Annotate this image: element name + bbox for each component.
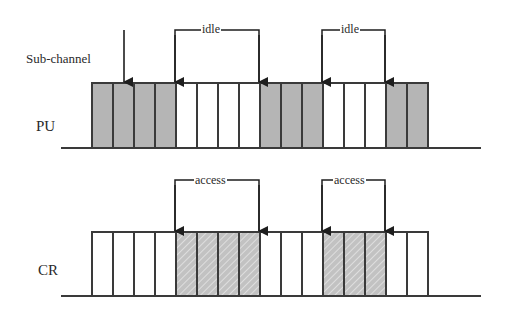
pu-cell-busy — [386, 83, 407, 148]
access-bracket-2 — [322, 180, 385, 231]
cr-cell-access — [344, 232, 365, 296]
spectrum-diagram: Sub-channel PU CR idle idle access acces… — [0, 0, 510, 314]
cr-cell-access — [176, 232, 197, 296]
cr-cell-access — [197, 232, 218, 296]
pu-cell-busy — [260, 83, 281, 148]
pu-subchannel-row — [92, 83, 428, 148]
pu-row-label: PU — [36, 118, 55, 135]
subchannel-label: Sub-channel — [26, 51, 91, 67]
cr-cell-access — [239, 232, 260, 296]
pu-cell-idle — [197, 83, 218, 148]
cr-cell-empty — [92, 232, 113, 296]
pu-cell-busy — [155, 83, 176, 148]
pu-cell-idle — [365, 83, 386, 148]
access-bracket-label-1: access — [194, 174, 227, 186]
cr-cell-empty — [386, 232, 407, 296]
pu-cell-busy — [281, 83, 302, 148]
pu-cell-idle — [239, 83, 260, 148]
pu-cell-busy — [407, 83, 428, 148]
idle-bracket-label-2: idle — [340, 23, 360, 35]
cr-cell-access — [323, 232, 344, 296]
access-bracket-label-2: access — [333, 174, 366, 186]
idle-bracket-1 — [175, 30, 259, 82]
cr-cell-empty — [155, 232, 176, 296]
cr-cell-empty — [113, 232, 134, 296]
cr-subchannel-row — [92, 232, 428, 296]
cr-cell-empty — [281, 232, 302, 296]
pu-cell-idle — [323, 83, 344, 148]
pu-cell-idle — [344, 83, 365, 148]
cr-cell-access — [218, 232, 239, 296]
pu-cell-idle — [218, 83, 239, 148]
cr-cell-empty — [407, 232, 428, 296]
idle-bracket-label-1: idle — [201, 23, 221, 35]
pu-cell-busy — [134, 83, 155, 148]
access-bracket-1 — [175, 180, 259, 231]
pu-cell-busy — [92, 83, 113, 148]
cr-row-label: CR — [38, 262, 58, 279]
cr-cell-empty — [260, 232, 281, 296]
cr-cell-empty — [134, 232, 155, 296]
cr-cell-empty — [302, 232, 323, 296]
pu-cell-idle — [176, 83, 197, 148]
cr-cell-access — [365, 232, 386, 296]
idle-bracket-2 — [322, 30, 385, 82]
pu-cell-busy — [113, 83, 134, 148]
diagram-canvas — [0, 0, 510, 314]
pu-cell-busy — [302, 83, 323, 148]
